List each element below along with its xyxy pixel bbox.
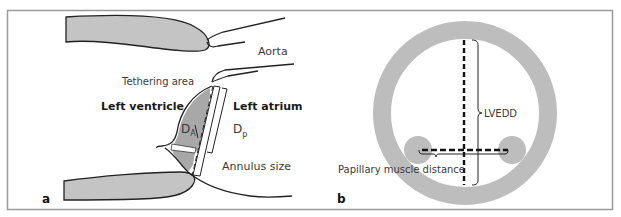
figure-canvas: Aorta Tethering area Left ventricle Left… [0, 0, 621, 217]
label-papillary-muscle-distance: Papillary muscle distance [338, 164, 465, 175]
label-annulus-size: Annulus size [222, 160, 291, 173]
label-d-p: Dp [233, 122, 247, 139]
label-left-ventricle: Left ventricle [101, 100, 184, 113]
aorta-upper-line [207, 18, 285, 40]
papillary-muscle-right [498, 136, 526, 164]
lower-atrial-line [188, 172, 292, 197]
panel-a: Aorta Tethering area Left ventricle Left… [42, 16, 303, 206]
label-lvedd: LVEDD [484, 108, 517, 119]
label-left-atrium: Left atrium [233, 100, 303, 113]
atrium-upper-line [212, 64, 294, 82]
panel-b: LVEDD Papillary muscle distance b [337, 30, 548, 206]
panel-letter-a: a [42, 192, 50, 206]
lower-wall-shape [64, 172, 195, 200]
tethering-lower-shape [172, 150, 195, 172]
upper-wall-shape [66, 16, 209, 52]
label-tethering-area: Tethering area [121, 76, 194, 87]
panel-letter-b: b [337, 192, 346, 206]
label-aorta: Aorta [258, 45, 288, 58]
lvedd-brace [472, 40, 482, 185]
aorta-lower-line [207, 42, 245, 47]
